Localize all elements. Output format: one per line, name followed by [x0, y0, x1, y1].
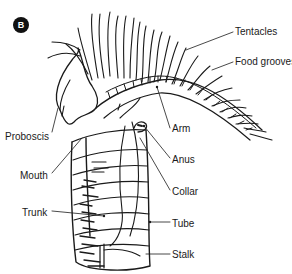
label-collar: Collar [172, 186, 198, 198]
label-arm: Arm [172, 123, 190, 135]
pterobranch-diagram: B Tentacles Food grooves Arm Proboscis M… [0, 0, 292, 274]
label-tube: Tube [172, 218, 194, 230]
proboscis [56, 48, 97, 124]
label-stalk: Stalk [172, 249, 194, 261]
trunk-body [86, 122, 139, 246]
panel-label-badge: B [13, 17, 29, 33]
label-trunk: Trunk [22, 207, 47, 219]
tube-outline [71, 130, 150, 270]
label-tentacles: Tentacles [235, 26, 277, 38]
label-mouth: Mouth [20, 170, 48, 182]
label-food-grooves: Food grooves [235, 56, 292, 68]
label-proboscis: Proboscis [5, 131, 49, 143]
label-anus: Anus [172, 154, 195, 166]
